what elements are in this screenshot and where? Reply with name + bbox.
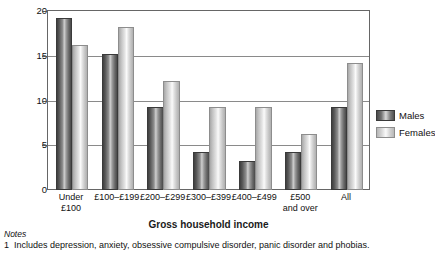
bar-females-2: [163, 81, 180, 190]
x-axis-tick-labels: Under£100£100–£199£200–£299£300–£399£400…: [48, 192, 369, 220]
bar-females-4: [255, 107, 272, 190]
legend-label-males: Males: [399, 110, 424, 121]
legend-item-males: Males: [376, 108, 426, 122]
note-item: 1 Includes depression, anxiety, obsessiv…: [4, 240, 422, 251]
bar-females-5: [301, 134, 318, 190]
bar-males-1: [102, 54, 119, 190]
x-tick-label-6: All: [319, 192, 373, 203]
note-number: 1: [4, 240, 14, 251]
bar-males-2: [147, 107, 164, 190]
note-text: Includes depression, anxiety, obsessive …: [14, 240, 370, 251]
bar-males-3: [193, 152, 210, 190]
bar-females-0: [72, 45, 89, 190]
bar-females-1: [118, 27, 135, 190]
legend-swatch-males-icon: [376, 110, 395, 121]
bar-males-4: [239, 161, 256, 190]
bar-males-5: [285, 152, 302, 190]
legend-label-females: Females: [399, 127, 435, 138]
chart-legend: Males Females: [376, 108, 426, 142]
bar-males-6: [331, 107, 348, 190]
notes-heading: Notes: [4, 229, 422, 239]
legend-item-females: Females: [376, 125, 426, 139]
y-axis-ticks: 05101520: [12, 0, 47, 190]
bar-females-3: [209, 107, 226, 190]
bar-females-6: [347, 63, 364, 190]
legend-swatch-females-icon: [376, 127, 395, 138]
bars-layer: [48, 11, 369, 190]
bar-males-0: [56, 18, 73, 190]
notes-block: Notes 1 Includes depression, anxiety, ob…: [4, 229, 422, 251]
